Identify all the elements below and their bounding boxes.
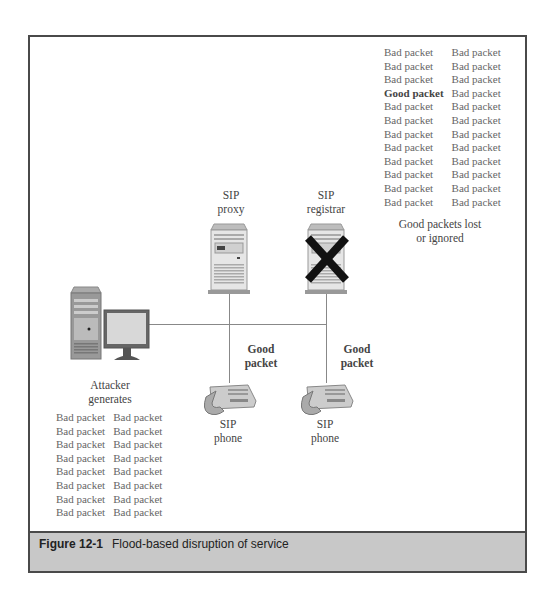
packet-entry: Bad packet [56,438,105,452]
packet-entry: Bad packet [113,411,162,425]
packet-entry: Bad packet [452,182,501,196]
proxy-link [229,293,230,383]
phone-icon [299,381,355,417]
packet-entry: Bad packet [384,155,444,169]
packet-entry: Bad packet [452,87,501,101]
packet-entry: Bad packet [56,425,105,439]
packet-entry: Bad packet [113,479,162,493]
packet-entry: Bad packet [452,168,501,182]
lost-note: Good packets lost or ignored [375,217,505,245]
packet-entry: Bad packet [452,114,501,128]
packet-entry: Bad packet [452,141,501,155]
server-icon [208,224,250,294]
computer-icon [68,287,150,365]
sip-phone-right-label: SIP phone [303,417,347,445]
packet-entry: Bad packet [113,465,162,479]
packet-entry: Bad packet [56,452,105,466]
packet-entry: Bad packet [452,155,501,169]
attacker-packet-list: Bad packetBad packetBad packetBad packet… [56,411,162,520]
packet-entry: Bad packet [384,46,444,60]
packet-entry: Bad packet [384,141,444,155]
good-packet-label-left: Good packet [238,342,284,370]
packet-entry: Bad packet [384,114,444,128]
packet-entry: Bad packet [384,128,444,142]
packet-entry: Bad packet [384,100,444,114]
packet-entry: Bad packet [452,128,501,142]
packet-entry: Bad packet [452,60,501,74]
figure-title: Flood-based disruption of service [112,537,289,551]
packet-entry: Bad packet [56,465,105,479]
packet-entry: Good packet [384,87,444,101]
failure-x-icon [305,235,349,283]
packet-entry: Bad packet [113,506,162,520]
packet-entry: Bad packet [384,196,444,210]
packet-entry: Bad packet [56,411,105,425]
sip-registrar-label: SIP registrar [291,188,361,216]
packet-entry: Bad packet [452,73,501,87]
packet-entry: Bad packet [384,168,444,182]
registrar-link [326,293,327,383]
packet-entry: Bad packet [384,60,444,74]
packet-entry: Bad packet [113,425,162,439]
good-packet-label-right: Good packet [334,342,380,370]
figure-caption: Figure 12-1 Flood-based disruption of se… [30,531,525,571]
packet-entry: Bad packet [452,196,501,210]
sip-proxy-label: SIP proxy [196,188,266,216]
packet-entry: Bad packet [113,438,162,452]
figure-number: Figure 12-1 [39,537,103,551]
packet-entry: Bad packet [56,493,105,507]
network-bus [148,324,327,325]
packet-entry: Bad packet [384,182,444,196]
packet-entry: Bad packet [452,100,501,114]
figure-frame: Bad packetBad packetBad packetBad packet… [28,35,527,573]
sip-phone-left-label: SIP phone [206,417,250,445]
packet-entry: Bad packet [452,46,501,60]
packet-entry: Bad packet [384,73,444,87]
packet-entry: Bad packet [56,479,105,493]
phone-icon [202,381,258,417]
packet-entry: Bad packet [113,493,162,507]
attacker-label: Attacker generates [70,378,150,406]
flood-packet-list: Bad packetBad packetBad packetBad packet… [384,46,501,209]
packet-entry: Bad packet [113,452,162,466]
packet-entry: Bad packet [56,506,105,520]
